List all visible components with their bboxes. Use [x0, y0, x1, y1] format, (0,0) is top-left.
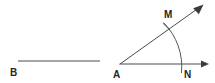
geometry-diagram: B M A N — [0, 0, 215, 83]
arc-tick-m — [163, 24, 169, 30]
oblique-ray — [120, 10, 197, 65]
label-m: M — [164, 9, 172, 20]
label-a: A — [113, 69, 120, 80]
line-segment-group: B — [10, 61, 100, 78]
arrow-upright-icon — [193, 5, 203, 15]
arrow-right-icon — [201, 61, 209, 68]
label-n: N — [184, 69, 191, 80]
diagram-canvas: B M A N — [0, 0, 215, 83]
angle-figure-group: M A N — [113, 5, 209, 81]
label-b: B — [10, 67, 17, 78]
